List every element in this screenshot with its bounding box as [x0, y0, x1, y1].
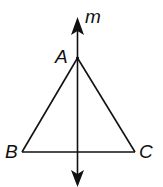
vertex-a-dot	[76, 56, 79, 59]
label-c: C	[139, 141, 153, 162]
label-a: A	[54, 46, 68, 67]
segment-ab	[22, 58, 78, 152]
label-m: m	[85, 6, 101, 27]
label-b: B	[5, 141, 18, 162]
triangle-diagram: m A B C	[0, 0, 163, 187]
segment-ac	[78, 58, 136, 152]
triangle-abc	[22, 56, 135, 152]
line-m	[71, 17, 84, 187]
